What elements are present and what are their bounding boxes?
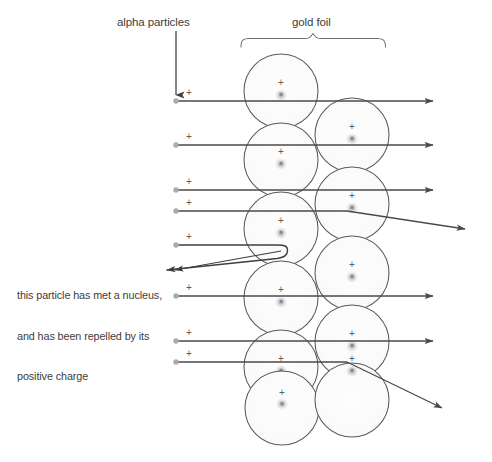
atom-plus-sign: + bbox=[349, 121, 355, 132]
atom-circle: + bbox=[244, 192, 318, 266]
atom-circle: + bbox=[315, 98, 389, 172]
atom-circle: + bbox=[315, 167, 389, 241]
repelled-particle-annotation: this particle has met a nucleus, and has… bbox=[17, 262, 162, 411]
atom-plus-sign: + bbox=[349, 259, 355, 270]
atom-plus-sign: + bbox=[278, 215, 284, 226]
alpha-particles-label: alpha particles bbox=[117, 16, 190, 29]
annotation-line-1: this particle has met a nucleus, bbox=[17, 289, 162, 303]
atom-circle: + bbox=[244, 261, 318, 335]
annotation-line-3: positive charge bbox=[17, 370, 162, 384]
atom-plus-sign: + bbox=[278, 77, 284, 88]
atom-plus-sign: + bbox=[278, 146, 284, 157]
atom-plus-sign: + bbox=[278, 284, 284, 295]
particle-plus-sign: + bbox=[186, 327, 192, 338]
alpha-ray: + bbox=[173, 327, 433, 344]
particle-plus-sign: + bbox=[186, 176, 192, 187]
particle-plus-sign: + bbox=[186, 131, 192, 142]
atom-column-left: + + + + bbox=[244, 54, 319, 445]
gold-foil-brace bbox=[241, 34, 386, 48]
particle-plus-sign: + bbox=[186, 87, 192, 98]
gold-foil-label: gold foil bbox=[292, 16, 331, 29]
particle-plus-sign: + bbox=[186, 282, 192, 293]
atom-plus-sign: + bbox=[349, 190, 355, 201]
atom-circle: + bbox=[244, 123, 318, 197]
atom-plus-sign: + bbox=[349, 353, 355, 364]
diagram-canvas: + + + + bbox=[0, 0, 492, 462]
atom-circle: + bbox=[245, 371, 319, 445]
atom-circle: + bbox=[244, 54, 318, 128]
particle-plus-sign: + bbox=[186, 231, 192, 242]
atom-column-right: + + + + bbox=[315, 98, 389, 437]
atom-circle: + bbox=[315, 236, 389, 310]
annotation-line-2: and has been repelled by its bbox=[17, 330, 162, 344]
particle-plus-sign: + bbox=[186, 197, 192, 208]
atom-plus-sign: + bbox=[279, 387, 285, 398]
atom-plus-sign: + bbox=[349, 328, 355, 339]
particle-plus-sign: + bbox=[186, 348, 192, 359]
